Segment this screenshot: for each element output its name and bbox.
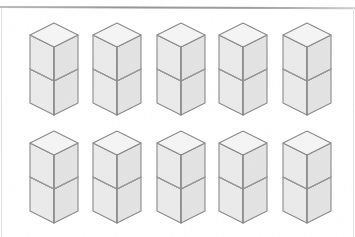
cube-stack-row1-col2-drawing xyxy=(90,20,144,118)
cube-stack-row1-col3-drawing xyxy=(154,20,208,118)
cube-stack-row1-col1-drawing xyxy=(27,20,81,118)
cube-stack-row1-col1 xyxy=(27,20,81,118)
figure-root xyxy=(0,0,355,237)
cube-stack-row1-col4 xyxy=(216,20,270,118)
cube-stack-row2-col3 xyxy=(154,128,208,226)
cube-stack-grid xyxy=(0,0,355,237)
cube-stack-row2-col4-drawing xyxy=(216,128,270,226)
cube-stack-row1-col4-drawing xyxy=(216,20,270,118)
cube-stack-row1-col5-drawing xyxy=(280,20,334,118)
cube-stack-row1-col3 xyxy=(154,20,208,118)
cube-stack-row2-col1 xyxy=(27,128,81,226)
cube-stack-row2-col5-drawing xyxy=(280,128,334,226)
cube-stack-row2-col5 xyxy=(280,128,334,226)
cube-stack-row2-col2 xyxy=(90,128,144,226)
cube-stack-row1-col2 xyxy=(90,20,144,118)
cube-stack-row2-col4 xyxy=(216,128,270,226)
cube-stack-row1-col5 xyxy=(280,20,334,118)
cube-stack-row2-col1-drawing xyxy=(27,128,81,226)
cube-stack-row2-col2-drawing xyxy=(90,128,144,226)
cube-stack-row2-col3-drawing xyxy=(154,128,208,226)
